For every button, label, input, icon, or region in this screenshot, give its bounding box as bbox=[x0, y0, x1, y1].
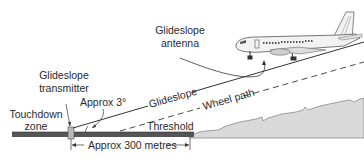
aircraft bbox=[236, 12, 362, 60]
antenna-leader-arrowhead bbox=[262, 60, 266, 65]
label-approx-distance: Approx 300 metres bbox=[88, 139, 177, 151]
label-touchdown-zone-line1: Touchdown bbox=[9, 108, 62, 120]
label-approx-angle: Approx 3° bbox=[80, 96, 126, 108]
glideslope-diagram: Glideslope antenna Glideslope transmitte… bbox=[0, 0, 364, 160]
aircraft-engine bbox=[270, 49, 290, 55]
label-glideslope-transmitter-line1: Glideslope bbox=[39, 69, 89, 81]
angle-leader bbox=[92, 109, 103, 128]
angle-leader-arrowhead bbox=[92, 124, 96, 128]
glideslope-transmitter bbox=[68, 127, 74, 139]
label-threshold: Threshold bbox=[147, 120, 194, 132]
distance-arrowhead-left bbox=[72, 143, 76, 147]
label-touchdown-zone-line2: zone bbox=[25, 120, 48, 132]
label-glideslope-antenna-line2: antenna bbox=[161, 37, 199, 49]
distance-arrowhead-right bbox=[185, 143, 189, 147]
label-glideslope: Glideslope bbox=[147, 85, 198, 110]
label-wheel-path: Wheel path bbox=[201, 86, 256, 112]
runway bbox=[12, 132, 194, 137]
angle-arc bbox=[85, 126, 88, 132]
label-glideslope-transmitter-line2: transmitter bbox=[39, 82, 89, 94]
label-glideslope-antenna-line1: Glideslope bbox=[155, 24, 205, 36]
transmitter-leader-arrowhead bbox=[68, 122, 71, 127]
